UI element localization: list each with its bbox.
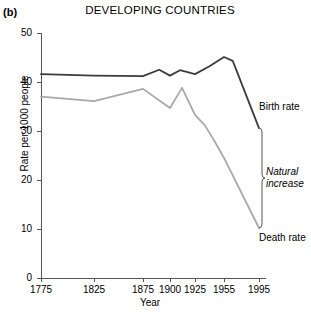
y-tick-label: 30: [10, 125, 32, 136]
birth-rate-label: Birth rate: [259, 101, 300, 112]
natural-increase-label-line1: Natural: [266, 166, 304, 178]
natural-increase-label-line2: increase: [266, 178, 304, 190]
x-tick-label: 1955: [204, 284, 244, 295]
natural-increase-bracket: [259, 128, 265, 228]
plot-area: [0, 0, 311, 313]
series-line: [41, 57, 259, 128]
y-tick-label: 50: [10, 27, 32, 38]
series-lines: [41, 57, 259, 228]
y-tick-label: 20: [10, 174, 32, 185]
y-tick-label: 40: [10, 76, 32, 87]
x-tick-label: 1995: [239, 284, 279, 295]
y-tick-label: 0: [10, 272, 32, 283]
chart-figure: (b) DEVELOPING COUNTRIES Rate per 1000 p…: [0, 0, 311, 313]
x-tick-label: 1775: [21, 284, 61, 295]
natural-increase-label: Natural increase: [266, 166, 304, 189]
bracket-path: [259, 128, 265, 228]
series-line: [41, 88, 259, 228]
axes: [37, 33, 266, 282]
x-tick-label: 1825: [74, 284, 114, 295]
y-tick-label: 10: [10, 223, 32, 234]
death-rate-label: Death rate: [259, 232, 306, 243]
